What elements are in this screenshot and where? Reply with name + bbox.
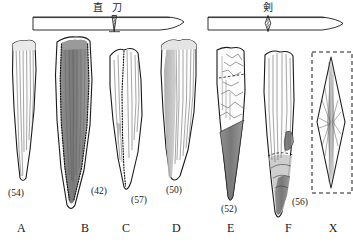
specimen-f-number: (56) xyxy=(292,197,308,208)
specimen-x-letter: X xyxy=(329,221,338,235)
specimen-c-number: (57) xyxy=(131,195,147,206)
specimen-e-number: (52) xyxy=(221,204,237,215)
specimen-a-number: (54) xyxy=(8,188,24,199)
specimen-b-letter: B xyxy=(81,221,89,235)
plate-drawing: 直 刀 剣 (54) A xyxy=(0,0,353,243)
specimen-c-letter: C xyxy=(122,221,130,235)
specimen-f-letter: F xyxy=(285,221,292,235)
diagram-label-chokuto: 直 刀 xyxy=(93,1,125,13)
specimen-b-number: (42) xyxy=(91,186,107,197)
specimen-d-number: (50) xyxy=(166,185,182,196)
specimen-e-letter: E xyxy=(227,221,234,235)
specimen-d-letter: D xyxy=(172,221,181,235)
figure-plate: 直 刀 剣 (54) A xyxy=(0,0,353,243)
chokuto-blade-outline xyxy=(33,17,184,30)
ken-blade-outline xyxy=(208,17,343,30)
specimen-a-letter: A xyxy=(17,221,26,235)
diagram-label-ken: 剣 xyxy=(263,2,273,13)
